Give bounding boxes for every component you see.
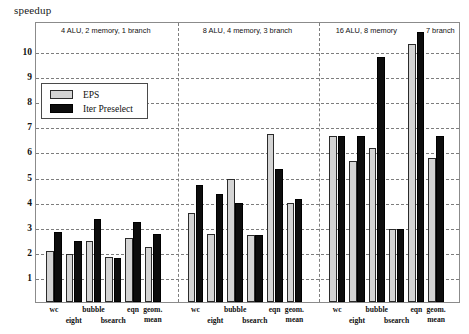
x-tick-label-g1-eight: eight: [197, 316, 233, 326]
legend-swatch-eps: [50, 90, 73, 99]
legend-entry-eps: EPS: [50, 88, 99, 101]
y-tick-label-1: 1: [4, 273, 32, 283]
bar-g1-eight-iter: [216, 194, 224, 302]
gridline-y-4: [36, 204, 459, 205]
bar-g1-bsearch-iter: [255, 235, 263, 302]
bar-g2-bsearch-eps: [389, 229, 397, 302]
bar-g1-eqn-iter: [275, 169, 283, 302]
x-tick-label-g2-bubble: bubble: [359, 305, 395, 315]
legend-label-eps: EPS: [83, 90, 99, 100]
bar-g1-bubble-iter: [235, 203, 243, 302]
group-title-0: 4 ALU, 2 memory, 1 branch: [35, 26, 177, 35]
chart-legend: EPS Iter Preselect: [41, 83, 148, 119]
x-tick-label-g1-bubble: bubble: [217, 305, 253, 315]
bar-g0-wc-eps: [46, 251, 54, 302]
bar-g2-wc-iter: [338, 136, 346, 302]
x-tick-label-g0-wc: wc: [36, 305, 72, 315]
x-tick-label-g1-bsearch: bsearch: [237, 316, 273, 326]
group-title-2-left: 16 ALU, 8 memory: [316, 26, 416, 35]
bar-g1-eqn-eps: [267, 134, 275, 302]
bar-g0-geommean-iter: [153, 234, 161, 302]
legend-swatch-iter-preselect: [50, 104, 73, 113]
bar-g0-eqn-iter: [133, 222, 141, 302]
legend-label-iter-preselect: Iter Preselect: [83, 104, 133, 114]
y-tick-label-8: 8: [4, 97, 32, 107]
y-tick-label-2: 2: [4, 248, 32, 258]
x-tick-label-mean: mean: [418, 315, 454, 325]
x-tick-label-geom: geom.: [135, 305, 171, 315]
gridline-y-6: [36, 153, 459, 154]
bar-g2-bubble-iter: [377, 57, 385, 302]
speedup-bar-chart: speedup 12345678910 EPS Iter Preselect w…: [0, 0, 469, 334]
y-tick-label-7: 7: [4, 122, 32, 132]
bar-g2-eqn-eps: [408, 44, 416, 302]
group-divider-1: [178, 23, 179, 302]
bar-g1-bubble-eps: [227, 179, 235, 302]
x-tick-label-g2-eight: eight: [339, 316, 375, 326]
y-tick-label-4: 4: [4, 198, 32, 208]
bar-g2-wc-eps: [329, 136, 337, 302]
bar-g0-eight-eps: [66, 254, 74, 302]
y-tick-label-3: 3: [4, 223, 32, 233]
group-title-1: 8 ALU, 4 memory, 3 branch: [177, 26, 319, 35]
bar-g1-geommean-iter: [295, 199, 303, 302]
y-tick-label-5: 5: [4, 173, 32, 183]
bar-g0-eqn-eps: [125, 238, 133, 302]
x-tick-label-geom: geom.: [276, 305, 312, 315]
x-tick-label-g0-geommean: geom.mean: [135, 305, 171, 324]
x-tick-label-g0-bsearch: bsearch: [95, 316, 131, 326]
x-tick-label-mean: mean: [276, 315, 312, 325]
bar-g2-bsearch-iter: [397, 229, 405, 302]
bar-g2-eqn-iter: [417, 32, 425, 302]
bar-g1-wc-iter: [196, 185, 204, 302]
bar-g0-bsearch-eps: [105, 257, 113, 302]
y-tick-label-6: 6: [4, 147, 32, 157]
gridline-y-10: [36, 53, 459, 54]
x-tick-label-g2-bsearch: bsearch: [379, 316, 415, 326]
plot-area: [35, 22, 460, 303]
y-tick-label-10: 10: [4, 47, 32, 57]
group-title-2-right: 7 branch: [418, 26, 462, 35]
gridline-y-7: [36, 128, 459, 129]
x-axis-tick-labels: wceightbubblebsearcheqngeom.meanwceightb…: [0, 303, 469, 334]
bar-g2-bubble-eps: [369, 148, 377, 302]
x-tick-label-g0-eight: eight: [56, 316, 92, 326]
group-divider-2: [319, 23, 320, 302]
x-tick-label-g1-geommean: geom.mean: [276, 305, 312, 324]
bar-g1-wc-eps: [188, 213, 196, 302]
x-tick-label-g2-wc: wc: [319, 305, 355, 315]
bar-g2-geommean-eps: [428, 158, 436, 303]
x-tick-label-g0-bubble: bubble: [75, 305, 111, 315]
gridline-y-5: [36, 179, 459, 180]
x-tick-label-g1-wc: wc: [178, 305, 214, 315]
bar-g1-eight-eps: [207, 234, 215, 302]
x-tick-label-mean: mean: [135, 315, 171, 325]
y-axis-tick-labels: 12345678910: [0, 22, 32, 303]
bar-g2-eight-eps: [349, 161, 357, 302]
bar-g2-eight-iter: [357, 136, 365, 302]
y-tick-label-9: 9: [4, 72, 32, 82]
bar-g0-wc-iter: [54, 232, 62, 302]
bar-g0-geommean-eps: [145, 247, 153, 302]
y-axis-title: speedup: [14, 4, 51, 16]
legend-entry-iter-preselect: Iter Preselect: [50, 102, 133, 115]
bar-g2-geommean-iter: [436, 136, 444, 302]
bar-g0-bsearch-iter: [114, 258, 122, 302]
bar-g0-bubble-iter: [94, 219, 102, 302]
bar-g0-eight-iter: [74, 241, 82, 302]
bar-g1-bsearch-eps: [247, 235, 255, 302]
bar-g0-bubble-eps: [86, 241, 94, 302]
bar-g1-geommean-eps: [287, 203, 295, 302]
x-tick-label-g2-geommean: geom.mean: [418, 305, 454, 324]
gridline-y-9: [36, 78, 459, 79]
x-tick-label-geom: geom.: [418, 305, 454, 315]
